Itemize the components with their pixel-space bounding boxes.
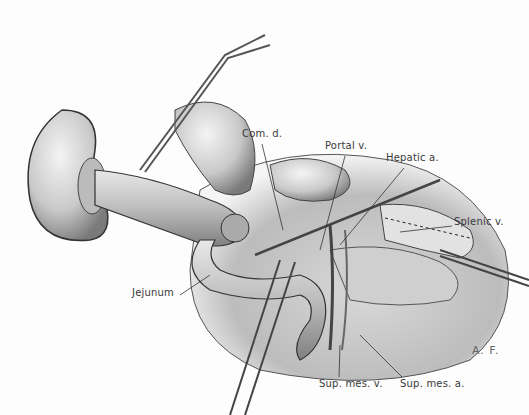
label-splenic-vein: Splenic v.: [454, 216, 504, 227]
label-sup-mes-vein: Sup. mes. v.: [319, 378, 383, 389]
label-sup-mes-artery: Sup. mes. a.: [400, 378, 465, 389]
label-jejunum: Jejunum: [132, 287, 174, 298]
label-hepatic-artery: Hepatic a.: [386, 152, 439, 163]
surgical-illustration: Com. d. Portal v. Hepatic a. Splenic v. …: [0, 0, 529, 415]
label-portal-vein: Portal v.: [325, 140, 367, 151]
label-common-duct: Com. d.: [242, 128, 282, 139]
artist-signature: A. F.: [472, 344, 499, 357]
illustration-drawing: [0, 0, 529, 415]
